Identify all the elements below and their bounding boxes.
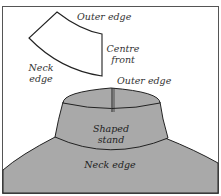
shaped-stand-label-1: Shaped <box>88 124 134 134</box>
pattern-outer-edge-label: Outer edge <box>77 12 131 22</box>
shaped-stand-label-2: stand <box>88 135 134 145</box>
diagram-canvas: Outer edge Centre front Neck edge Outer … <box>0 0 221 196</box>
pattern-neck-edge-label-2: edge <box>26 74 56 84</box>
garment-neck-edge-label: Neck edge <box>70 160 150 170</box>
pattern-neck-edge-label-1: Neck <box>26 63 56 73</box>
pattern-centre-front-label-2: front <box>106 55 140 65</box>
pattern-centre-front-label-1: Centre <box>106 44 140 54</box>
stand-outer-edge-label: Outer edge <box>117 76 171 86</box>
